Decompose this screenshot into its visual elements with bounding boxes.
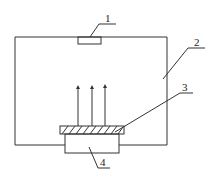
leader-1: 1 bbox=[90, 12, 116, 37]
chamber-enclosure bbox=[15, 37, 167, 145]
label-2: 2 bbox=[194, 36, 200, 48]
leader-2: 2 bbox=[163, 36, 205, 79]
base-block bbox=[65, 134, 119, 153]
leader-3: 3 bbox=[115, 81, 193, 132]
upward-arrows bbox=[78, 86, 105, 126]
top-component-rect bbox=[78, 37, 101, 44]
label-3: 3 bbox=[182, 81, 188, 93]
diagram-canvas: 1 2 3 4 bbox=[0, 0, 217, 185]
leader-4: 4 bbox=[89, 147, 110, 168]
label-1: 1 bbox=[105, 12, 111, 24]
hatched-plate bbox=[60, 126, 124, 134]
label-4: 4 bbox=[100, 156, 106, 168]
